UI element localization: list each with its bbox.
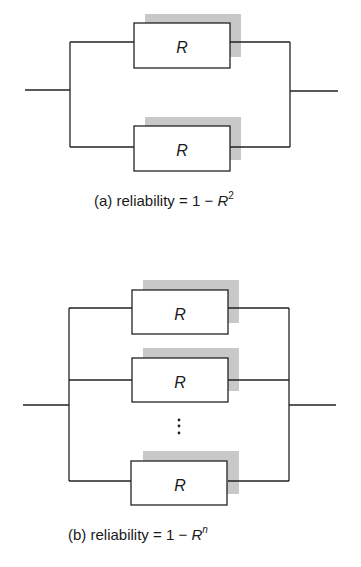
component-label: R xyxy=(174,306,186,323)
component-label: R xyxy=(174,374,186,391)
component-label: R xyxy=(174,477,186,494)
parallel-reliability-diagrams: R R (a) reliability = 1 − R2 R R R (b) r… xyxy=(0,0,361,567)
component-label: R xyxy=(176,39,188,56)
component-label: R xyxy=(176,142,188,159)
caption-a: (a) reliability = 1 − R2 xyxy=(94,190,234,209)
ellipsis-dots xyxy=(178,419,181,435)
caption-b: (b) reliability = 1 − Rn xyxy=(68,524,208,543)
